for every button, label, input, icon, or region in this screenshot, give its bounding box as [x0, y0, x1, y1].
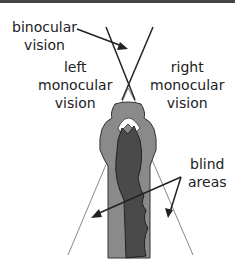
binocular-label: binocular vision [12, 18, 77, 54]
right-sight-line [122, 27, 153, 100]
right-monocular-label: right monocular vision [150, 58, 224, 112]
left-monocular-label: left monocular vision [38, 58, 112, 112]
blind-arrow-left-head [91, 209, 102, 218]
binocular-arrow-head [117, 42, 128, 50]
blind-arrow-right-head [165, 208, 173, 218]
blind-areas-label: blind areas [188, 155, 227, 191]
left-blind-boundary [68, 155, 110, 255]
